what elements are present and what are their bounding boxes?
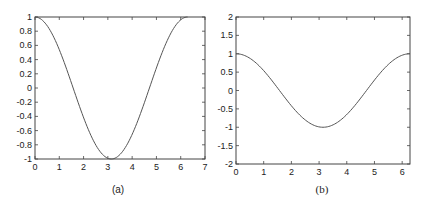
series-line (35, 17, 188, 159)
y-tick-label: -1 (24, 154, 32, 164)
chart-caption: (b) (316, 183, 329, 196)
x-tick-label: 5 (154, 162, 159, 172)
x-tick-label: 3 (105, 162, 110, 172)
y-tick-label: 1 (228, 49, 233, 59)
y-tick-label: 1 (27, 12, 32, 22)
y-tick-label: -0.6 (16, 126, 32, 136)
y-tick-label: 0.8 (19, 26, 32, 36)
x-tick-label: 6 (400, 167, 405, 177)
x-tick-label: 2 (81, 162, 86, 172)
chart-a: 01234567-1-0.8-0.6-0.4-0.200.20.40.60.81… (16, 12, 207, 195)
plot-frame (236, 17, 410, 164)
y-tick-label: 0.4 (19, 55, 32, 65)
y-tick-label: -1.5 (217, 141, 233, 151)
y-tick-label: -0.8 (16, 140, 32, 150)
y-tick-label: 2 (228, 12, 233, 22)
x-tick-label: 0 (32, 162, 37, 172)
figure: 01234567-1-0.8-0.6-0.4-0.200.20.40.60.81… (0, 0, 429, 211)
series-line (236, 54, 410, 128)
x-tick-label: 3 (317, 167, 322, 177)
chart-b: 0123456-2-1.5-1-0.500.511.52(b) (217, 12, 410, 196)
y-tick-label: 0.5 (220, 67, 233, 77)
y-tick-label: 0 (27, 83, 32, 93)
y-tick-label: 0.6 (19, 40, 32, 50)
y-tick-label: -0.4 (16, 111, 32, 121)
x-tick-label: 7 (202, 162, 207, 172)
x-tick-label: 5 (372, 167, 377, 177)
x-tick-label: 4 (130, 162, 135, 172)
plot-frame (35, 17, 205, 159)
y-tick-label: -0.5 (217, 104, 233, 114)
y-tick-label: -2 (225, 159, 233, 169)
y-tick-label: 0 (228, 86, 233, 96)
y-tick-label: 0.2 (19, 69, 32, 79)
x-tick-label: 2 (289, 167, 294, 177)
chart-caption: (a) (112, 184, 124, 195)
x-tick-label: 0 (233, 167, 238, 177)
y-tick-label: -1 (225, 122, 233, 132)
x-tick-label: 4 (344, 167, 349, 177)
x-tick-label: 6 (178, 162, 183, 172)
y-tick-label: 1.5 (220, 30, 233, 40)
x-tick-label: 1 (57, 162, 62, 172)
x-tick-label: 1 (261, 167, 266, 177)
y-tick-label: -0.2 (16, 97, 32, 107)
